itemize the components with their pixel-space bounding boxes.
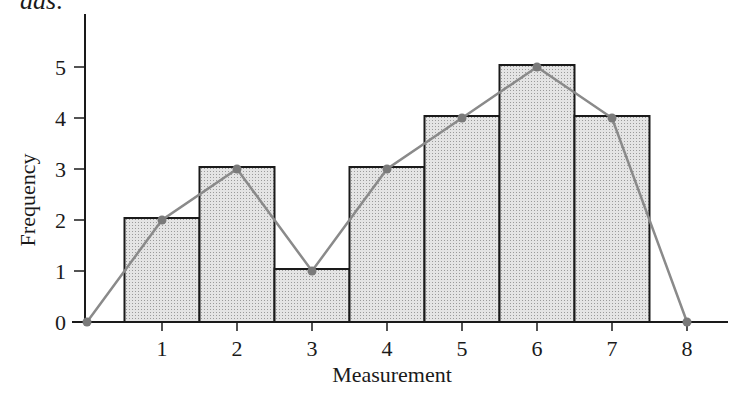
histogram-bar bbox=[125, 218, 200, 322]
polygon-point-marker bbox=[533, 63, 542, 72]
x-tick-label: 8 bbox=[682, 336, 693, 361]
polygon-point-marker bbox=[308, 267, 317, 276]
x-tick-label: 7 bbox=[607, 336, 618, 361]
histogram-bar bbox=[350, 167, 425, 322]
y-tick-label: 3 bbox=[55, 157, 66, 182]
polygon-point-marker bbox=[608, 114, 617, 123]
polygon-point-marker bbox=[683, 318, 692, 327]
polygon-point-marker bbox=[383, 165, 392, 174]
y-tick-label: 0 bbox=[55, 310, 66, 335]
x-tick-label: 4 bbox=[382, 336, 393, 361]
x-tick-label: 5 bbox=[457, 336, 468, 361]
histogram-bar bbox=[500, 65, 575, 322]
x-tick-label: 2 bbox=[232, 336, 243, 361]
histogram-bar bbox=[275, 269, 350, 322]
polygon-point-marker bbox=[233, 165, 242, 174]
y-axis-title: Frequency bbox=[15, 154, 40, 247]
polygon-point-marker bbox=[458, 114, 467, 123]
x-tick-label: 3 bbox=[307, 336, 318, 361]
x-tick-label: 1 bbox=[157, 336, 168, 361]
y-tick-label: 5 bbox=[55, 55, 66, 80]
histogram-bar bbox=[200, 167, 275, 322]
polygon-point-marker bbox=[158, 216, 167, 225]
histogram-chart: 01234512345678MeasurementFrequency bbox=[0, 0, 742, 400]
bars-group bbox=[125, 65, 650, 322]
y-tick-label: 1 bbox=[55, 259, 66, 284]
x-axis-title: Measurement bbox=[332, 362, 452, 387]
polygon-point-marker bbox=[83, 318, 92, 327]
histogram-bar bbox=[575, 116, 650, 322]
y-tick-label: 2 bbox=[55, 208, 66, 233]
histogram-bar bbox=[425, 116, 500, 322]
y-tick-label: 4 bbox=[55, 106, 66, 131]
x-tick-label: 6 bbox=[532, 336, 543, 361]
